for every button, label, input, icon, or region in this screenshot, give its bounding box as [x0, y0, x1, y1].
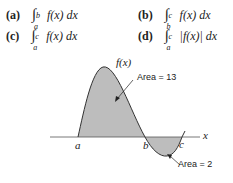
area-positive-label: Area = 13: [137, 72, 176, 82]
point-b-label: b: [143, 139, 149, 151]
curve-label: f(x): [116, 56, 131, 68]
x-axis-label: x: [203, 129, 208, 141]
function-graph: [0, 0, 233, 183]
point-a-label: a: [75, 139, 81, 151]
point-c-label: c: [179, 138, 184, 150]
area-negative-label: Area = 2: [178, 159, 212, 169]
positive-area-region: [78, 67, 145, 137]
